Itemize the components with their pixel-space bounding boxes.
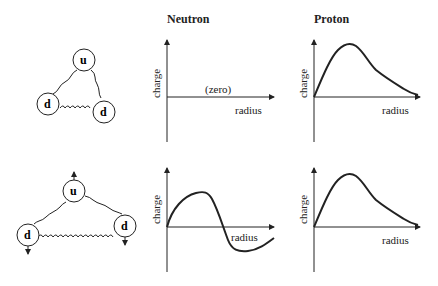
quark-d-label: d xyxy=(44,97,51,111)
gluon-spring xyxy=(91,70,101,98)
x-axis-label: radius xyxy=(235,104,262,116)
x-axis-label: radius xyxy=(382,234,409,246)
proton-charge-curve-bottom xyxy=(314,174,418,227)
y-axis-label: charge xyxy=(150,195,162,224)
gluon-spring xyxy=(85,196,122,214)
figure-canvas: u d d u d d xyxy=(0,0,438,286)
quark-d-label: d xyxy=(24,228,31,242)
y-axis-label: charge xyxy=(297,69,309,98)
x-axis-label: radius xyxy=(382,104,409,116)
gluon-spring xyxy=(38,235,113,237)
neutron-column-title: Neutron xyxy=(167,12,209,27)
gluon-spring xyxy=(34,202,66,224)
gluon-spring xyxy=(60,106,90,108)
y-axis-label: charge xyxy=(150,69,162,98)
proton-column-title: Proton xyxy=(314,12,349,27)
zero-annotation: (zero) xyxy=(205,83,231,95)
quark-d-label: d xyxy=(121,219,128,233)
proton-charge-curve-top xyxy=(314,44,418,97)
y-axis-label: charge xyxy=(297,195,309,224)
neutron-charge-curve-bottom xyxy=(167,192,274,251)
quark-u-label: u xyxy=(80,53,87,67)
quark-d-label: d xyxy=(100,105,107,119)
x-axis-label: radius xyxy=(231,231,258,243)
quark-u-label: u xyxy=(70,184,77,198)
